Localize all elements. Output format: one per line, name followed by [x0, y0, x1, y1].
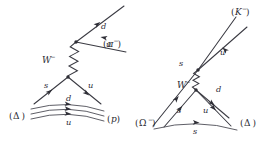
right-label-s-incoming: s	[179, 58, 183, 68]
right-label-u-kaon: u	[220, 47, 225, 57]
right-label-d: d	[216, 84, 221, 94]
svg-text:(: (	[231, 7, 235, 17]
left-label-u-spectator: u	[66, 117, 71, 127]
left-lower-vertex	[66, 75, 69, 78]
right-diagram-group	[153, 17, 247, 130]
left-label-w-charge: −	[51, 53, 56, 60]
right-delta-symbol: Δ	[244, 118, 251, 128]
right-label-w-charge: −	[186, 78, 191, 85]
right-s-quark-incoming-line	[153, 70, 198, 126]
svg-text:(: (	[9, 111, 13, 121]
left-delta-symbol: Δ	[13, 111, 20, 121]
right-label-s-spectator: s	[177, 105, 181, 115]
svg-text:): )	[117, 114, 121, 124]
left-w-boson-line	[68, 42, 79, 77]
svg-text:(: (	[103, 39, 107, 49]
svg-text:(: (	[107, 114, 111, 124]
svg-text:(: (	[135, 118, 139, 128]
right-label-delta-hadron: ( Δ )	[240, 118, 256, 128]
right-lower-vertex	[194, 88, 197, 91]
right-s-quark-outgoing-line	[198, 17, 236, 70]
svg-text:): )	[118, 39, 122, 49]
left-upper-vertex	[74, 40, 77, 43]
right-label-u-spectator: u	[203, 105, 208, 115]
right-upper-vertex	[196, 68, 199, 71]
left-label-s: s	[44, 80, 48, 90]
svg-text:(: (	[240, 118, 244, 128]
diagram-canvas: d u W − s u d u ( π − ) ( Δ ) ( p )	[0, 0, 274, 142]
right-label-omega-hadron: ( Ω − )	[135, 116, 156, 128]
right-omega-symbol: Ω	[139, 118, 146, 128]
left-label-delta-hadron: ( Δ )	[9, 111, 25, 121]
right-label-kaon-hadron: ( K − )	[231, 5, 250, 17]
feynman-diagram-figure: d u W − s u d u ( π − ) ( Δ ) ( p )	[0, 0, 274, 142]
svg-text:): )	[246, 7, 250, 17]
left-label-d-spectator: d	[66, 93, 71, 103]
svg-text:): )	[22, 111, 26, 121]
left-label-pion-hadron: ( π − )	[103, 37, 121, 49]
left-label-u-proton: u	[88, 80, 93, 90]
right-bottom-spectator-arrow	[193, 120, 200, 125]
svg-text:): )	[152, 118, 156, 128]
left-label-proton-hadron: ( p )	[107, 114, 120, 124]
left-label-d: d	[101, 21, 106, 31]
right-label-s-bottom: s	[193, 126, 197, 136]
svg-text:): )	[253, 118, 257, 128]
left-u-quark-line	[68, 77, 101, 104]
